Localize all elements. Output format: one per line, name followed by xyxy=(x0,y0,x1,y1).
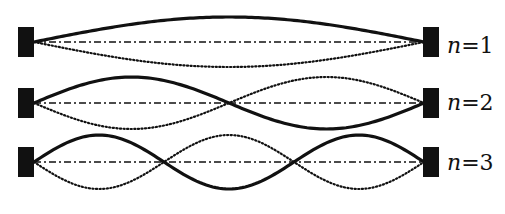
mode-label: n=3 xyxy=(447,150,494,175)
mode-label-variable: n xyxy=(447,150,461,175)
mode-1-group: n=1 xyxy=(18,17,494,67)
wave-solid-curve xyxy=(34,17,424,42)
standing-waves-diagram: n=1n=2n=3 xyxy=(0,0,505,214)
mode-3-group: n=3 xyxy=(18,135,494,189)
mode-label-variable: n xyxy=(447,33,461,58)
left-clamp xyxy=(18,88,34,118)
mode-label-value: =3 xyxy=(461,150,493,175)
mode-label-value: =1 xyxy=(461,33,493,58)
left-clamp xyxy=(18,147,34,177)
right-clamp xyxy=(423,27,439,57)
right-clamp xyxy=(423,88,439,118)
wave-dotted-curve xyxy=(34,42,424,67)
right-clamp xyxy=(423,147,439,177)
mode-label-value: =2 xyxy=(461,90,493,115)
left-clamp xyxy=(18,27,34,57)
standing-waves-svg: n=1n=2n=3 xyxy=(0,0,505,214)
mode-2-group: n=2 xyxy=(18,77,494,129)
mode-label: n=2 xyxy=(447,90,494,115)
mode-label: n=1 xyxy=(447,33,494,58)
mode-label-variable: n xyxy=(447,90,461,115)
